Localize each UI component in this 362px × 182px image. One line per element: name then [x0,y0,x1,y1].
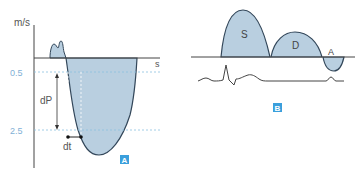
dt-point-end [79,135,83,139]
a-wave [323,57,344,71]
x-unit-label: s [155,59,160,69]
panel-a: m/s s 0.5 2.5 dP dt A [10,17,160,168]
badge-a-label: A [122,156,128,165]
dp-label: dP [40,95,53,106]
dt-point-start [66,135,70,139]
dp-arrow-head-bottom [55,125,59,130]
d-wave-label: D [292,40,299,51]
tick-label-2-5: 2.5 [10,126,23,136]
dp-arrow-head-top [55,73,59,78]
tick-label-0-5: 0.5 [10,68,23,78]
doppler-diagram: m/s s 0.5 2.5 dP dt A S D A B [0,0,362,182]
positive-bumps [50,41,66,58]
s-wave-label: S [241,29,248,40]
dt-label: dt [63,141,72,152]
y-unit-label: m/s [14,17,30,28]
panel-b: S D A B [191,10,355,113]
negative-velocity-wave [66,58,137,155]
badge-b-label: B [275,104,281,113]
ecg-trace [198,65,344,85]
a-wave-label: A [328,47,334,57]
